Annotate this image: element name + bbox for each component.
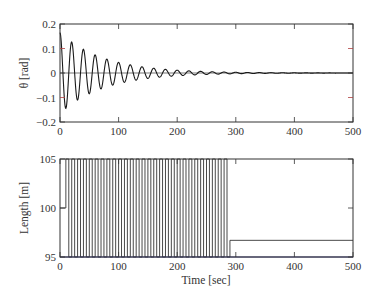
top-x-tick-labels: 0100200300400500 <box>57 125 362 137</box>
bottom-x-axis-title: Time [sec] <box>181 274 230 286</box>
bottom-y-tick-labels: 10510095 <box>40 153 57 263</box>
length-line <box>60 159 353 257</box>
bottom-plot: 10510095 0100200300400500 Length [m] Tim… <box>18 153 362 286</box>
x-tick-label: 100 <box>110 125 127 137</box>
y-tick-label: 95 <box>45 251 57 263</box>
theta-line <box>60 33 353 109</box>
top-plot: 0.20.10−0.1−0.2 0100200300400500 θ [rad] <box>18 18 362 137</box>
top-y-axis-title: θ [rad] <box>18 58 30 89</box>
x-tick-label: 200 <box>169 260 186 272</box>
y-tick-label: 105 <box>40 153 57 165</box>
x-tick-label: 400 <box>286 125 303 137</box>
x-tick-label: 500 <box>345 260 362 272</box>
x-tick-label: 100 <box>110 260 127 272</box>
y-tick-label: −0.2 <box>36 116 56 128</box>
x-tick-label: 300 <box>228 260 245 272</box>
x-tick-label: 0 <box>57 260 63 272</box>
top-y-tick-labels: 0.20.10−0.1−0.2 <box>36 18 56 128</box>
y-tick-label: 0.2 <box>42 18 56 30</box>
x-tick-label: 500 <box>345 125 362 137</box>
y-tick-label: 0 <box>51 67 57 79</box>
x-tick-label: 200 <box>169 125 186 137</box>
y-tick-label: 0.1 <box>42 43 56 55</box>
bottom-x-tick-labels: 0100200300400500 <box>57 260 362 272</box>
figure: 0.20.10−0.1−0.2 0100200300400500 θ [rad]… <box>0 0 380 303</box>
x-tick-label: 0 <box>57 125 63 137</box>
bottom-y-axis-title: Length [m] <box>18 182 31 234</box>
x-tick-label: 400 <box>286 260 303 272</box>
y-tick-label: 100 <box>40 202 57 214</box>
y-tick-label: −0.1 <box>36 92 56 104</box>
x-tick-label: 300 <box>228 125 245 137</box>
